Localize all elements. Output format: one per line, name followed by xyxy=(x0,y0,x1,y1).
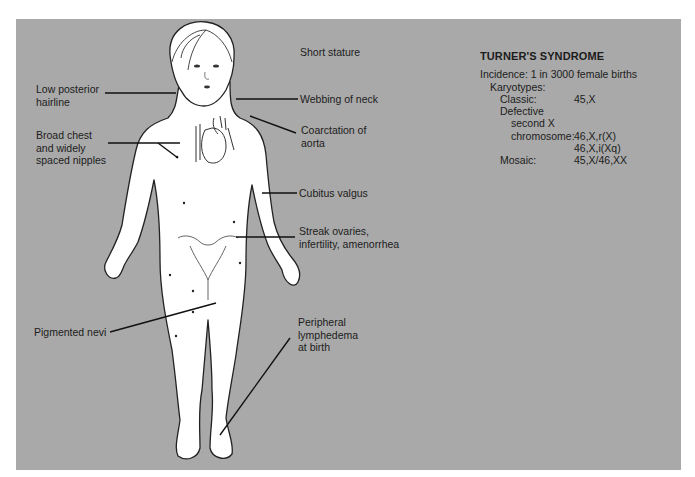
karyotype-value: 45,X/46,XX xyxy=(574,154,627,166)
karyotype-row: second X xyxy=(480,117,604,129)
label-broad-chest: Broad chest and widely spaced nipples xyxy=(36,129,106,167)
label-peripheral-lymphedema: Peripheral lymphedema at birth xyxy=(298,316,358,354)
syndrome-info-box: TURNER'S SYNDROME Incidence: 1 in 3000 f… xyxy=(480,50,604,167)
karyotype-key: chromosome: xyxy=(511,130,575,142)
karyotype-key: Mosaic: xyxy=(500,154,536,166)
karyotype-row: chromosome:46,X,r(X) xyxy=(480,130,604,142)
karyotypes-heading-row: Karyotypes: xyxy=(480,81,604,93)
label-coarctation-of-aorta: Coarctation of aorta xyxy=(301,124,366,149)
incidence-row: Incidence: 1 in 3000 female births xyxy=(480,68,604,80)
karyotype-row: Classic:45,X xyxy=(480,93,604,105)
info-title: TURNER'S SYNDROME xyxy=(480,50,604,62)
label-pigmented-nevi: Pigmented nevi xyxy=(34,326,106,339)
karyotype-row: Mosaic:45,X/46,XX xyxy=(480,154,604,166)
label-webbing-of-neck: Webbing of neck xyxy=(300,93,378,106)
label-cubitus-valgus: Cubitus valgus xyxy=(299,187,368,200)
karyotype-key: Classic: xyxy=(500,93,537,105)
karyotype-value: 45,X xyxy=(574,93,596,105)
karyotype-row: Defective xyxy=(480,105,604,117)
label-short-stature: Short stature xyxy=(300,46,360,59)
karyotype-row: 46,X,i(Xq) xyxy=(480,142,604,154)
karyotype-value: 46,X,r(X) xyxy=(574,130,616,142)
incidence-text: Incidence: 1 in 3000 female births xyxy=(480,68,637,80)
karyotype-value: 46,X,i(Xq) xyxy=(574,142,621,154)
label-streak-ovaries: Streak ovaries, infertility, amenorrhea xyxy=(299,225,399,250)
karyotype-key: second X xyxy=(511,117,555,129)
karyotypes-heading: Karyotypes: xyxy=(490,81,545,93)
karyotype-key: Defective xyxy=(500,105,544,117)
label-low-posterior-hairline: Low posterior hairline xyxy=(36,83,99,108)
